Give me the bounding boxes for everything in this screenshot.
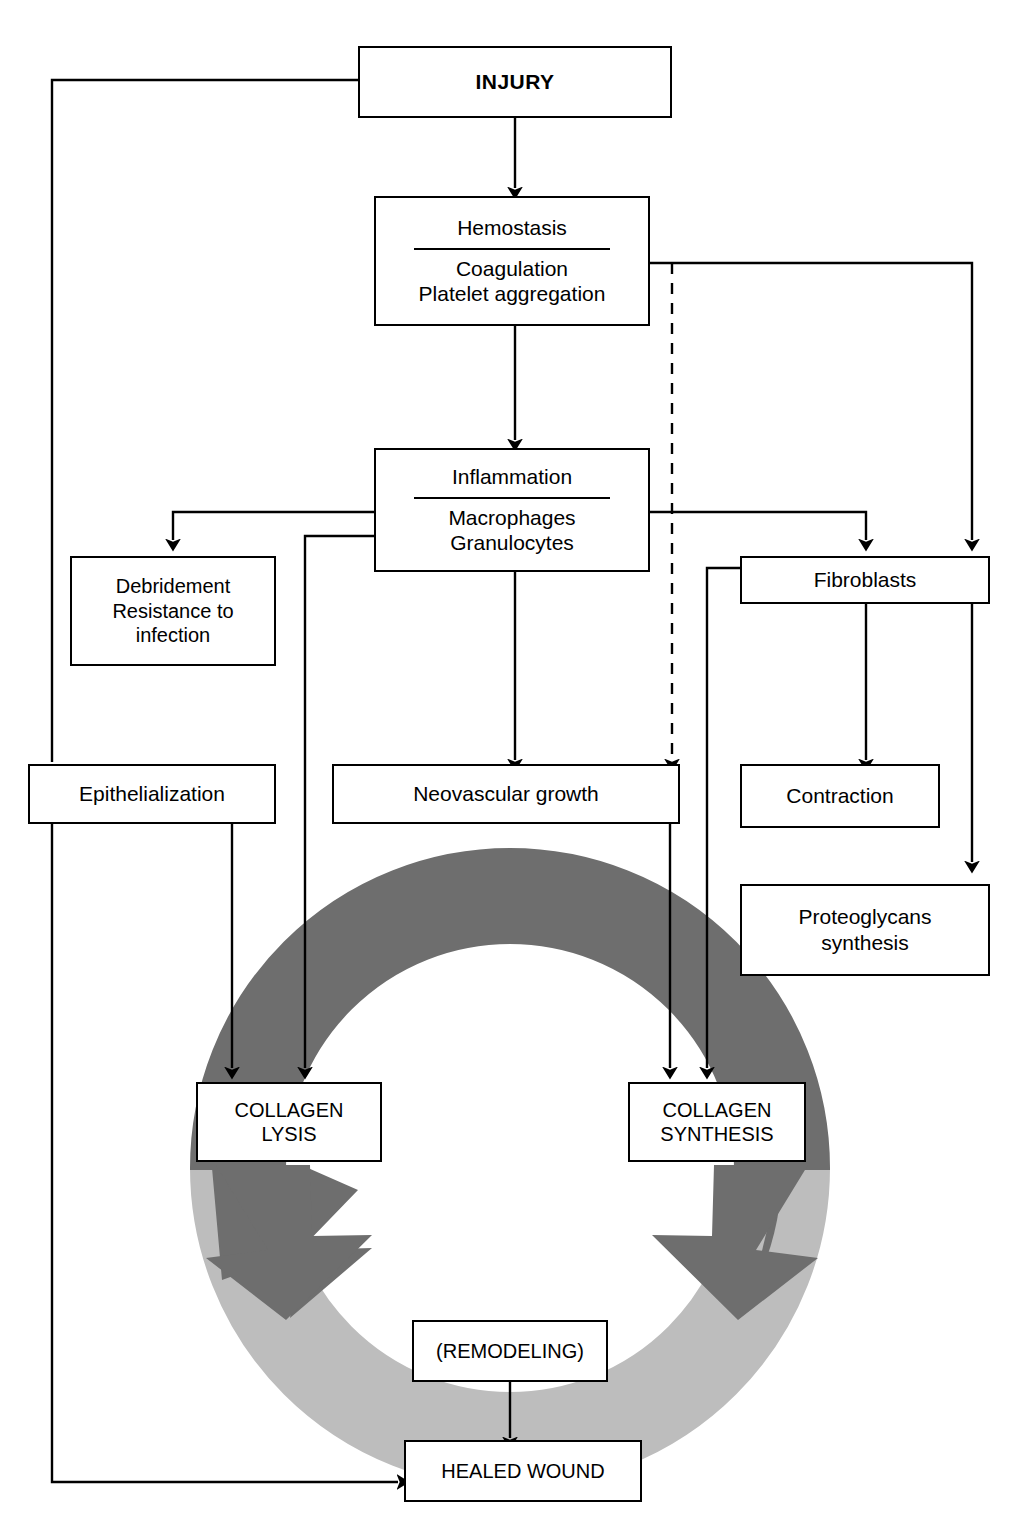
node-remodeling[interactable]: (REMODELING) xyxy=(412,1320,608,1382)
node-debridement-line1: Debridement xyxy=(116,574,231,598)
node-inflammation-sub1: Macrophages xyxy=(448,505,575,531)
node-inflammation[interactable]: Inflammation Macrophages Granulocytes xyxy=(374,448,650,572)
node-epithelialization-label: Epithelialization xyxy=(79,781,225,807)
node-injury-label: INJURY xyxy=(475,69,554,95)
node-hemostasis-divider xyxy=(414,248,610,250)
node-contraction[interactable]: Contraction xyxy=(740,764,940,828)
node-remodeling-label: (REMODELING) xyxy=(436,1339,584,1363)
node-collagen-synthesis-line2: SYNTHESIS xyxy=(660,1122,773,1146)
node-neovascular-growth[interactable]: Neovascular growth xyxy=(332,764,680,824)
node-debridement-line3: infection xyxy=(136,623,211,647)
node-inflammation-divider xyxy=(414,497,610,499)
node-inflammation-header: Inflammation xyxy=(452,464,572,495)
node-collagen-lysis-line1: COLLAGEN xyxy=(235,1098,344,1122)
node-collagen-synthesis[interactable]: COLLAGEN SYNTHESIS xyxy=(628,1082,806,1162)
node-healed-wound[interactable]: HEALED WOUND xyxy=(404,1440,642,1502)
node-neovascular-growth-label: Neovascular growth xyxy=(413,781,599,807)
node-epithelialization[interactable]: Epithelialization xyxy=(28,764,276,824)
node-hemostasis-sub2: Platelet aggregation xyxy=(419,281,606,307)
node-injury[interactable]: INJURY xyxy=(358,46,672,118)
node-debridement-line2: Resistance to xyxy=(112,599,233,623)
node-proteoglycans-line2: synthesis xyxy=(821,930,909,956)
node-hemostasis[interactable]: Hemostasis Coagulation Platelet aggregat… xyxy=(374,196,650,326)
node-collagen-lysis[interactable]: COLLAGEN LYSIS xyxy=(196,1082,382,1162)
node-proteoglycans-line1: Proteoglycans xyxy=(798,904,931,930)
node-debridement[interactable]: Debridement Resistance to infection xyxy=(70,556,276,666)
edge-inflammation-fibroblasts xyxy=(650,512,866,540)
node-hemostasis-sub1: Coagulation xyxy=(456,256,568,282)
node-contraction-label: Contraction xyxy=(786,783,893,809)
edge-hemostasis-fibroblasts xyxy=(650,263,972,540)
node-fibroblasts[interactable]: Fibroblasts xyxy=(740,556,990,604)
node-inflammation-sub2: Granulocytes xyxy=(450,530,574,556)
node-hemostasis-header: Hemostasis xyxy=(457,215,567,246)
node-collagen-synthesis-line1: COLLAGEN xyxy=(663,1098,772,1122)
node-collagen-lysis-line2: LYSIS xyxy=(261,1122,316,1146)
flowchart-canvas: INJURY Hemostasis Coagulation Platelet a… xyxy=(0,0,1024,1532)
node-fibroblasts-label: Fibroblasts xyxy=(814,567,917,593)
node-healed-wound-label: HEALED WOUND xyxy=(441,1459,604,1483)
node-proteoglycans-synthesis[interactable]: Proteoglycans synthesis xyxy=(740,884,990,976)
